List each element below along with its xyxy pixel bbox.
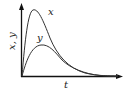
chart: x y t x, y [0,0,134,95]
y-curve [22,45,118,76]
y-axis-label: x, y [6,32,17,50]
x-axis-arrow-icon [116,74,123,79]
y-axis-arrow-icon [19,3,24,10]
x-curve-label: x [48,6,54,17]
x-axis-label: t [64,79,69,90]
y-curve-label: y [36,32,43,43]
